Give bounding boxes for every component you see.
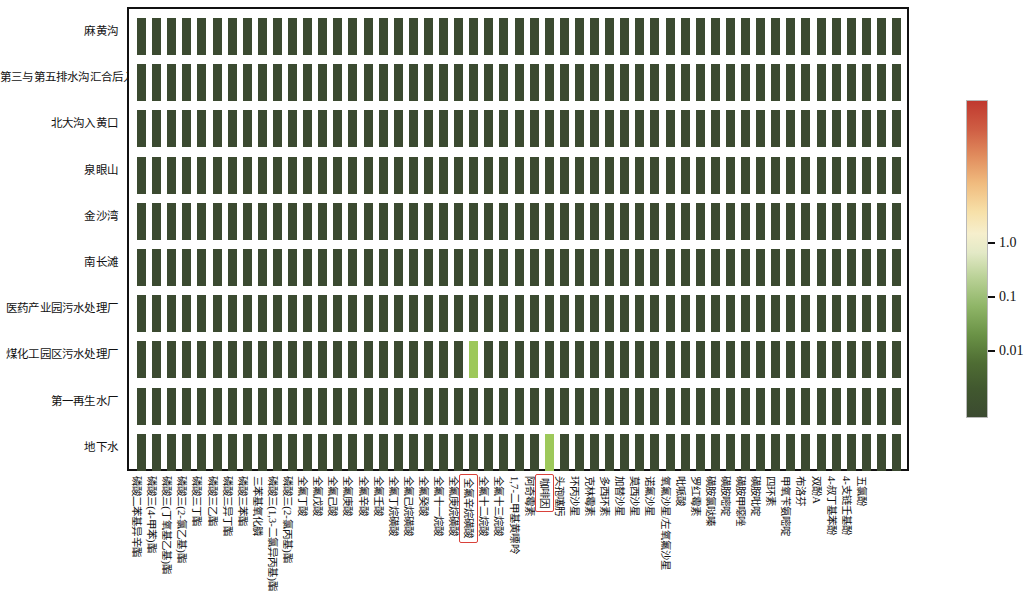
heatmap-cell bbox=[681, 434, 690, 471]
heatmap-cell bbox=[348, 203, 357, 240]
heatmap-cell bbox=[409, 341, 418, 378]
heatmap-cell bbox=[590, 341, 599, 378]
column-label: 磷酸三(2-氯乙基)酯 bbox=[174, 474, 189, 565]
heatmap-cell bbox=[152, 110, 161, 147]
heatmap-cell bbox=[364, 157, 373, 194]
heatmap-cell bbox=[862, 18, 871, 55]
heatmap-cell bbox=[635, 203, 644, 240]
heatmap-cell bbox=[379, 110, 388, 147]
heatmap-cell bbox=[620, 203, 629, 240]
heatmap-cell bbox=[696, 110, 705, 147]
heatmap-cell bbox=[137, 18, 146, 55]
heatmap-cell bbox=[590, 249, 599, 286]
heatmap-cell bbox=[303, 341, 312, 378]
heatmap-cell bbox=[379, 388, 388, 425]
heatmap-cell bbox=[348, 18, 357, 55]
heatmap-cell bbox=[515, 295, 524, 332]
row-label: 金沙湾 bbox=[0, 207, 118, 223]
heatmap-cell bbox=[258, 249, 267, 286]
column-label: 克林霉素 bbox=[582, 474, 597, 518]
heatmap-cell bbox=[530, 341, 539, 378]
heatmap-cell bbox=[635, 18, 644, 55]
heatmap-cell bbox=[409, 434, 418, 471]
heatmap-cell bbox=[197, 203, 206, 240]
column-label: 磷酸二苯基异辛酯 bbox=[129, 474, 144, 559]
heatmap-cell bbox=[635, 64, 644, 101]
heatmap-cell bbox=[243, 157, 252, 194]
heatmap-cell bbox=[530, 388, 539, 425]
column-label: 磷酸三(丁氧基乙基)酯 bbox=[159, 474, 174, 576]
heatmap-cell bbox=[801, 434, 810, 471]
heatmap-cell bbox=[484, 434, 493, 471]
heatmap-cell bbox=[545, 110, 554, 147]
heatmap-cell bbox=[424, 249, 433, 286]
heatmap-cell bbox=[801, 110, 810, 147]
heatmap-cell bbox=[137, 203, 146, 240]
heatmap-cell bbox=[877, 64, 886, 101]
heatmap-cell bbox=[137, 295, 146, 332]
heatmap-cell bbox=[424, 203, 433, 240]
heatmap-cell bbox=[847, 18, 856, 55]
heatmap-cell bbox=[439, 295, 448, 332]
heatmap-cell bbox=[167, 434, 176, 471]
heatmap-cell bbox=[197, 110, 206, 147]
heatmap-cell bbox=[801, 203, 810, 240]
heatmap-cell bbox=[213, 18, 222, 55]
heatmap-cell bbox=[273, 203, 282, 240]
heatmap-cell bbox=[333, 388, 342, 425]
heatmap-cell bbox=[137, 249, 146, 286]
heatmap-cell bbox=[756, 18, 765, 55]
heatmap-cell bbox=[499, 388, 508, 425]
row-label: 煤化工园区污水处理厂 bbox=[0, 345, 118, 361]
heatmap-cell bbox=[197, 434, 206, 471]
heatmap-cell bbox=[228, 249, 237, 286]
heatmap-cell-grid bbox=[129, 9, 907, 469]
heatmap-cell bbox=[681, 18, 690, 55]
heatmap-cell bbox=[832, 64, 841, 101]
heatmap-cell bbox=[575, 295, 584, 332]
heatmap-cell bbox=[862, 295, 871, 332]
column-label: 四环素 bbox=[763, 474, 778, 508]
colorbar-tick-mark bbox=[988, 242, 995, 244]
heatmap-cell bbox=[182, 64, 191, 101]
colorbar-tick-label: 0.1 bbox=[999, 289, 1017, 305]
heatmap-cell bbox=[364, 249, 373, 286]
heatmap-cell bbox=[696, 64, 705, 101]
heatmap-cell bbox=[439, 110, 448, 147]
heatmap-cell bbox=[394, 388, 403, 425]
heatmap-cell bbox=[620, 388, 629, 425]
heatmap-cell bbox=[877, 388, 886, 425]
heatmap-cell bbox=[469, 341, 478, 378]
heatmap-cell bbox=[590, 18, 599, 55]
heatmap-cell bbox=[318, 157, 327, 194]
heatmap-cell bbox=[590, 388, 599, 425]
heatmap-cell bbox=[515, 203, 524, 240]
heatmap-cell bbox=[832, 18, 841, 55]
heatmap-cell bbox=[499, 18, 508, 55]
heatmap-cell bbox=[545, 295, 554, 332]
heatmap-cell bbox=[333, 295, 342, 332]
heatmap-cell bbox=[469, 388, 478, 425]
heatmap-cell bbox=[439, 157, 448, 194]
heatmap-cell bbox=[560, 18, 569, 55]
heatmap-cell bbox=[197, 157, 206, 194]
heatmap-cell bbox=[379, 64, 388, 101]
heatmap-cell bbox=[711, 110, 720, 147]
heatmap-cell bbox=[847, 203, 856, 240]
heatmap-cell bbox=[741, 18, 750, 55]
heatmap-cell bbox=[499, 249, 508, 286]
heatmap-cell bbox=[892, 157, 901, 194]
heatmap-cell bbox=[439, 434, 448, 471]
heatmap-cell bbox=[303, 249, 312, 286]
row-label: 南长滩 bbox=[0, 253, 118, 269]
heatmap-cell bbox=[771, 203, 780, 240]
heatmap-cell bbox=[530, 249, 539, 286]
heatmap-cell bbox=[726, 249, 735, 286]
heatmap-cell bbox=[530, 434, 539, 471]
heatmap-cell bbox=[605, 341, 614, 378]
heatmap-cell bbox=[318, 388, 327, 425]
heatmap-cell bbox=[333, 203, 342, 240]
column-label: 全氟己酸 bbox=[325, 474, 340, 518]
column-label: 磷酸三乙酯 bbox=[205, 474, 220, 529]
heatmap-cell bbox=[409, 18, 418, 55]
